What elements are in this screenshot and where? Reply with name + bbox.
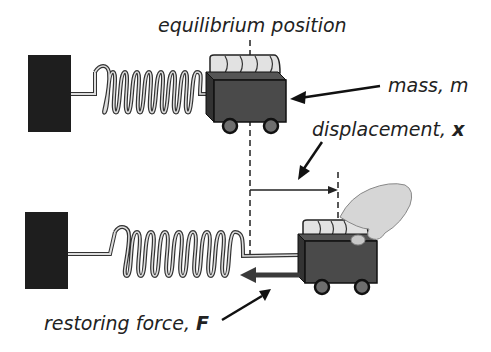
displacement-label: displacement, x (312, 118, 464, 140)
equilibrium-label: equilibrium position (158, 14, 347, 36)
force-text: restoring force, (44, 312, 196, 334)
mass-label: mass, m (388, 74, 469, 96)
displacement-symbol: x (452, 118, 464, 140)
spring-mass-diagram (0, 0, 491, 352)
restoring-force-label: restoring force, F (44, 312, 209, 334)
cart-top (206, 55, 286, 133)
bottom-scene (25, 184, 412, 320)
displacement-indicator (250, 142, 338, 220)
force-label-arrow (222, 289, 271, 320)
wall-top (28, 55, 71, 132)
displacement-text: displacement, (312, 118, 452, 140)
force-symbol: F (196, 312, 209, 334)
cart-bottom (298, 220, 377, 294)
wall-bottom (25, 212, 68, 289)
spring-top (95, 66, 208, 113)
spring-bottom (115, 227, 300, 276)
mass-arrow (290, 86, 380, 104)
restoring-force-arrow (240, 267, 300, 283)
